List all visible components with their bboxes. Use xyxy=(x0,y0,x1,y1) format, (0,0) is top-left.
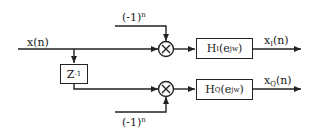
top-modulator-wire xyxy=(115,26,166,41)
output-i-label: xI(n) xyxy=(264,35,289,46)
top-modulator-label: (-1)n xyxy=(122,12,146,23)
block-diagram: x(n) Z-1 (-1)n (-1)n HI(ejw) HQ(ejw) xI(… xyxy=(0,0,315,140)
bottom-modulator-wire xyxy=(115,97,166,112)
output-q-label: xQ(n) xyxy=(264,75,292,86)
bottom-modulator-label: (-1)n xyxy=(122,117,146,128)
diagram-wires xyxy=(0,0,315,140)
bottom-multiplier-x-icon xyxy=(162,85,170,93)
top-multiplier-x-icon xyxy=(162,45,170,53)
delay-block: Z-1 xyxy=(60,64,88,84)
input-label: x(n) xyxy=(27,37,49,48)
filter-q-block: HQ(ejw) xyxy=(196,79,253,100)
filter-i-block: HI(ejw) xyxy=(196,38,253,59)
